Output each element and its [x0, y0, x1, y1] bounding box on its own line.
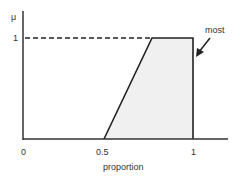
y-axis-label: μ — [11, 13, 16, 22]
x-tick-1: 1 — [191, 148, 196, 157]
chart-plot — [0, 0, 240, 177]
x-axis-label: proportion — [103, 163, 144, 172]
x-tick-0.5: 0.5 — [96, 148, 109, 157]
y-tick-1: 1 — [13, 34, 18, 43]
most-membership-area — [104, 38, 193, 139]
annotation-arrow-line — [199, 38, 210, 52]
x-tick-0: 0 — [21, 148, 26, 157]
most-annotation-label: most — [205, 26, 225, 35]
annotation-arrow-head-icon — [196, 48, 204, 57]
membership-function-chart: μ 1 0 0.5 1 proportion most — [0, 0, 240, 177]
